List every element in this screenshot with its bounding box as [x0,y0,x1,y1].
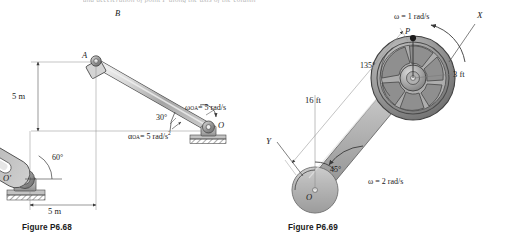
dimension-horizontal-5m [30,66,96,210]
bar-oa [96,63,208,127]
figure-p669-drawing [253,0,505,238]
alpha-value: = 5 rad/s [140,132,168,141]
axis-label-y: Y [266,137,271,146]
dimension-label-3ft: 3 ft [453,70,465,79]
pin-joint-a [91,56,101,66]
omega-wheel-label: ω = 1 rad/s [394,13,429,21]
figure-page: and acceleration of point P along the ax… [0,0,505,238]
alpha-leader-oa [172,122,181,129]
dimension-label-horizontal: 5 m [48,207,61,216]
figure-p669: P O X Y 16 ft 3 ft 135° 45° ω = 1 rad/s … [253,0,505,238]
figure-p668-drawing [0,0,253,238]
dimension-label-vertical: 5 m [12,92,25,101]
label-point-o-prime: O' [3,174,11,183]
angle-label-45: 45° [330,166,341,174]
omega-value: = 5 rad/s [198,103,226,112]
caption-p668: Figure P6.68 [22,223,72,232]
dimension-label-16ft: 16 ft [305,96,321,105]
label-point-p: P [405,27,410,36]
omega-subscript: OA [190,105,198,111]
caption-p669: Figure P6.69 [288,223,338,232]
axis-x [449,24,475,62]
omega-arm-label: ω = 2 rad/s [368,178,403,186]
angle-label-135: 135° [360,62,375,70]
axis-y [277,142,303,176]
alpha-subscript: OA [132,134,140,140]
dimension-vertical-5m [31,62,215,131]
alpha-exponent: 2 [168,130,171,136]
angle-label-60: 60° [52,154,63,162]
label-point-o: O [218,121,224,130]
figure-p668: B A O' O 5 m 5 m 60° 30° ωOA= 5 rad/s αO… [0,0,253,238]
omega-oa-label: ωOA= 5 rad/s [185,104,226,112]
alpha-oa-label: αOA= 5 rad/s2 [128,131,171,141]
label-point-b: B [115,9,120,18]
label-point-o-69: O [306,193,312,202]
wheel [371,35,455,120]
axis-label-x: X [477,11,483,20]
label-point-a: A [82,51,87,60]
angle-label-30: 30° [156,114,167,122]
